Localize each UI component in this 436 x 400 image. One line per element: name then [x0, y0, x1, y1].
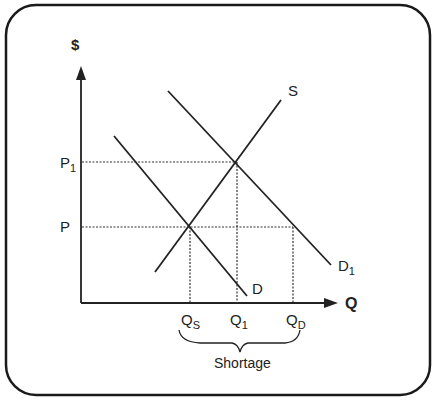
y-axis-label: $	[71, 36, 80, 53]
demand-curve-label: D	[252, 280, 263, 297]
price-label-p: P	[60, 218, 70, 235]
supply-demand-diagram: $ Q P1 P S D D1 QS Q1 QD Shortage	[0, 0, 436, 400]
diagram-frame	[6, 5, 430, 395]
x-axis-label: Q	[345, 295, 357, 312]
shortage-label: Shortage	[214, 355, 271, 371]
supply-curve-label: S	[288, 82, 298, 99]
